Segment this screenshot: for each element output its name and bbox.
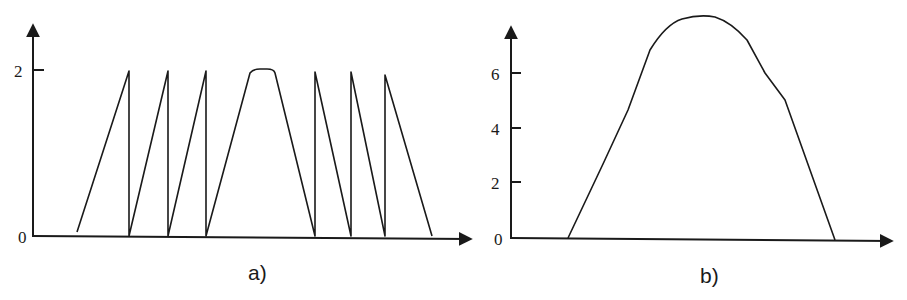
figure: 2 0 a) 6 4 2 0 b) [0, 0, 907, 300]
y-tick-label-4-b: 4 [491, 120, 500, 139]
panel-label-a: a) [248, 261, 267, 284]
y-tick-label-6-b: 6 [491, 65, 500, 84]
y-tick-label-0-b: 0 [494, 230, 503, 249]
y-tick-label-2-a: 2 [14, 62, 23, 81]
x-axis-a [33, 236, 470, 239]
panel-label-b: b) [700, 264, 719, 287]
chart-b: 6 4 2 0 b) [491, 16, 891, 287]
y-tick-label-0-a: 0 [18, 228, 27, 247]
y-tick-label-2-b: 2 [491, 174, 500, 193]
signal-curve-a [77, 69, 432, 236]
signal-curve-b [568, 16, 835, 240]
chart-a: 2 0 a) [14, 26, 470, 284]
